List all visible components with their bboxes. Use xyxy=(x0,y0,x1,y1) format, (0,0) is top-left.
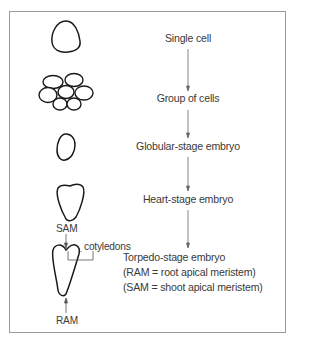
stage-label-heart: Heart-stage embryo xyxy=(143,193,233,205)
sam-arrow xyxy=(65,234,68,248)
cell-cluster-shape xyxy=(39,74,93,111)
single-cell-shape xyxy=(52,21,80,52)
cotyledons-label: cotyledons xyxy=(84,240,131,252)
cotyledons-bracket xyxy=(68,251,93,260)
torpedo-note-ram: (RAM = root apical meristem) xyxy=(123,266,256,278)
stage-label-single-cell: Single cell xyxy=(165,32,211,44)
stage-label-torpedo: Torpedo-stage embryo xyxy=(123,251,225,263)
globular-embryo-shape xyxy=(57,134,75,160)
ram-arrow xyxy=(65,298,68,313)
torpedo-embryo-shape xyxy=(53,245,80,296)
ram-label: RAM xyxy=(56,314,78,326)
sam-label: SAM xyxy=(56,222,77,234)
stage-label-globular: Globular-stage embryo xyxy=(136,140,240,152)
stage-label-group-of-cells: Group of cells xyxy=(157,92,220,104)
torpedo-note-sam: (SAM = shoot apical meristem) xyxy=(123,281,263,293)
heart-embryo-shape xyxy=(57,184,84,220)
